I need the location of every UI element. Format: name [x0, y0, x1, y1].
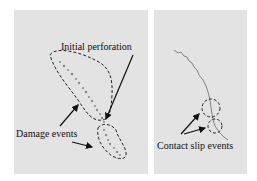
contact-trace: [174, 50, 228, 140]
label-initial-perforation: Initial perforation: [61, 42, 132, 52]
slip-arrow-lower: [184, 128, 205, 134]
damage-arrow-lower: [72, 142, 92, 147]
label-contact-slip-events: Contact slip events: [157, 141, 233, 151]
damage-region-upper: [50, 51, 112, 121]
diagram-overlay: [0, 0, 257, 181]
damage-region-lower: [98, 124, 126, 158]
initial-perforation-arrow: [106, 55, 133, 119]
damage-trace: [59, 61, 121, 156]
damage-arrow-upper: [60, 105, 78, 126]
label-damage-events: Damage events: [16, 129, 77, 139]
